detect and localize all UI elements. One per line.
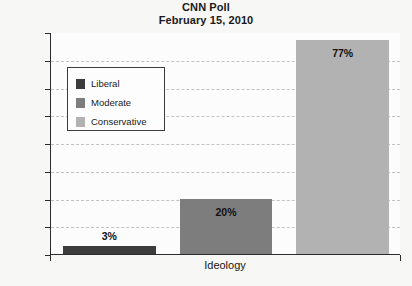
legend-swatch-conservative xyxy=(76,117,85,127)
bar-liberal: 3% xyxy=(63,246,156,254)
chart-title: CNN Poll xyxy=(0,1,412,14)
bar-conservative: 77% xyxy=(296,40,389,254)
y-axis-tick-mark xyxy=(45,172,50,173)
x-axis-label: Ideology xyxy=(50,259,400,271)
y-axis-tick-mark xyxy=(45,144,50,145)
y-axis-tick-mark xyxy=(45,61,50,62)
legend-item: Liberal xyxy=(76,74,164,93)
legend-item: Conservative xyxy=(76,112,164,131)
bar-value-label: 20% xyxy=(180,207,273,218)
bar-moderate: 20% xyxy=(180,199,273,255)
bar-value-label: 77% xyxy=(296,48,389,59)
x-axis-tick-mark xyxy=(50,255,51,261)
legend-swatch-liberal xyxy=(76,79,85,89)
y-axis-tick-mark xyxy=(45,200,50,201)
legend-label-liberal: Liberal xyxy=(91,79,120,89)
legend-swatch-moderate xyxy=(76,98,85,108)
x-axis-tick-mark xyxy=(400,255,401,261)
y-axis-tick-mark xyxy=(45,116,50,117)
legend-item: Moderate xyxy=(76,93,164,112)
legend-label-moderate: Moderate xyxy=(91,98,131,108)
y-axis-tick-mark xyxy=(45,227,50,228)
chart-subtitle: February 15, 2010 xyxy=(0,14,412,27)
y-axis-tick-mark xyxy=(45,33,50,34)
y-axis-tick-mark xyxy=(45,89,50,90)
bar-value-label: 3% xyxy=(63,231,156,242)
chart-legend: Liberal Moderate Conservative xyxy=(67,67,165,131)
legend-label-conservative: Conservative xyxy=(91,117,146,127)
